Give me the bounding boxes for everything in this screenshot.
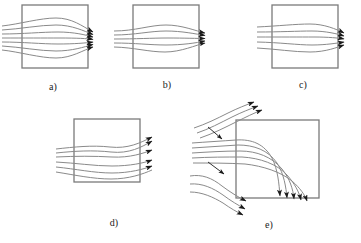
panel-c-label: c) xyxy=(299,79,307,91)
panel-d-label: d) xyxy=(110,217,118,229)
panel-b-label: b) xyxy=(163,79,171,91)
panel-e-label: e) xyxy=(265,219,273,231)
panel-a-label: a) xyxy=(49,81,57,93)
flow-diagram: a) b) c) xyxy=(0,0,361,243)
flow-figure-container: a) b) c) xyxy=(0,0,361,243)
figure-background xyxy=(0,0,361,243)
